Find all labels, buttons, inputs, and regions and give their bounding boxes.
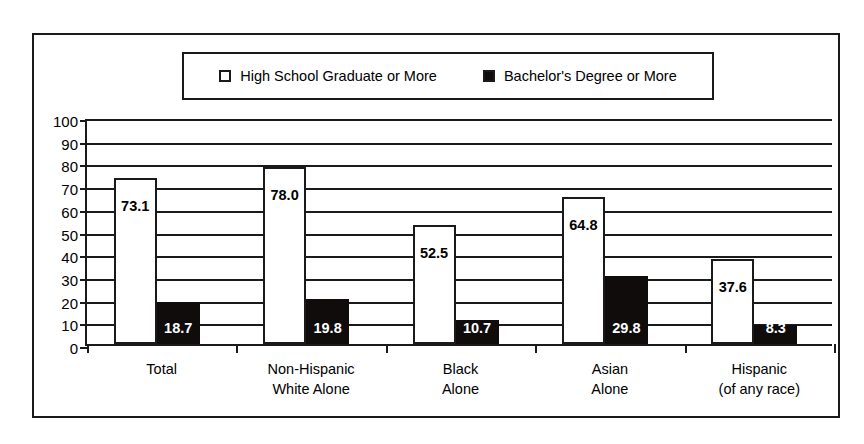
y-axis-tick [80, 279, 87, 281]
y-axis-tick [80, 211, 87, 213]
bar-value-label: 18.7 [159, 321, 198, 336]
y-axis-tick [80, 302, 87, 304]
bar-bachelors: 19.8 [306, 299, 349, 344]
y-axis-tick-label: 50 [61, 227, 78, 242]
y-axis-tick [80, 256, 87, 258]
bar-high-school: 37.6 [711, 259, 754, 344]
x-axis-category-line: (of any race) [719, 380, 800, 400]
x-axis-category-label: Total [146, 360, 177, 380]
y-axis-tick-label: 0 [70, 341, 78, 356]
y-axis-tick [80, 347, 87, 349]
gridline [87, 143, 832, 145]
bar-bachelors: 10.7 [456, 320, 499, 344]
x-axis-tick [685, 344, 687, 353]
bar-value-label: 10.7 [458, 321, 497, 336]
x-axis-category-label: Hispanic(of any race) [719, 360, 800, 399]
x-axis-tick [535, 344, 537, 353]
gridline [87, 188, 832, 190]
bar-high-school: 64.8 [562, 197, 605, 344]
bar-value-label: 78.0 [265, 188, 304, 203]
legend-label-high-school: High School Graduate or More [240, 68, 437, 84]
y-axis-tick-label: 20 [61, 295, 78, 310]
x-axis-category-line: Asian [591, 360, 628, 380]
y-axis-tick-label: 30 [61, 272, 78, 287]
x-axis-tick [834, 344, 836, 353]
x-axis-category-line: Total [146, 360, 177, 380]
x-axis-category-line: Hispanic [719, 360, 800, 380]
bar-high-school: 78.0 [263, 167, 306, 344]
bar-value-label: 64.8 [564, 218, 603, 233]
bar-bachelors: 18.7 [157, 302, 200, 344]
bar-value-label: 8.3 [756, 321, 795, 336]
x-axis-category-label: Non-HispanicWhite Alone [268, 360, 355, 399]
gridline [87, 211, 832, 213]
y-axis-tick-label: 90 [61, 136, 78, 151]
bar-value-label: 29.8 [607, 321, 646, 336]
x-axis-category-line: Non-Hispanic [268, 360, 355, 380]
chart-legend: High School Graduate or More Bachelor's … [182, 52, 714, 100]
legend-item-bachelors: Bachelor's Degree or More [483, 68, 677, 84]
gridline [87, 234, 832, 236]
bar-value-label: 52.5 [415, 246, 454, 261]
legend-label-bachelors: Bachelor's Degree or More [504, 68, 677, 84]
chart-frame: High School Graduate or More Bachelor's … [32, 33, 840, 418]
y-axis-tick [80, 143, 87, 145]
bar-high-school: 52.5 [413, 225, 456, 344]
x-axis-tick [386, 344, 388, 353]
y-axis-tick-label: 10 [61, 318, 78, 333]
x-axis-tick [236, 344, 238, 353]
bar-bachelors: 29.8 [605, 276, 648, 344]
x-axis-category-line: White Alone [268, 380, 355, 400]
y-axis-tick-label: 100 [53, 114, 78, 129]
y-axis-tick [80, 324, 87, 326]
y-axis-tick [80, 165, 87, 167]
y-axis-tick [80, 188, 87, 190]
x-axis-category-label: AsianAlone [591, 360, 628, 399]
bar-value-label: 19.8 [308, 321, 347, 336]
y-axis-tick [80, 120, 87, 122]
y-axis-tick-label: 80 [61, 159, 78, 174]
plot-area: 010203040506070809010073.118.7Total78.01… [85, 119, 832, 346]
x-axis-category-label: BlackAlone [442, 360, 479, 399]
x-axis-tick [87, 344, 89, 353]
legend-swatch-hollow-icon [219, 70, 231, 82]
legend-item-high-school: High School Graduate or More [219, 68, 437, 84]
bar-value-label: 37.6 [713, 280, 752, 295]
gridline [87, 165, 832, 167]
x-axis-category-line: Alone [591, 380, 628, 400]
y-axis-tick-label: 70 [61, 182, 78, 197]
y-axis-tick-label: 40 [61, 250, 78, 265]
bar-high-school: 73.1 [114, 178, 157, 344]
legend-swatch-filled-icon [483, 70, 495, 82]
y-axis-tick [80, 234, 87, 236]
bar-bachelors: 8.3 [754, 325, 797, 344]
x-axis-category-line: Black [442, 360, 479, 380]
x-axis-category-line: Alone [442, 380, 479, 400]
bar-value-label: 73.1 [116, 199, 155, 214]
y-axis-tick-label: 60 [61, 204, 78, 219]
